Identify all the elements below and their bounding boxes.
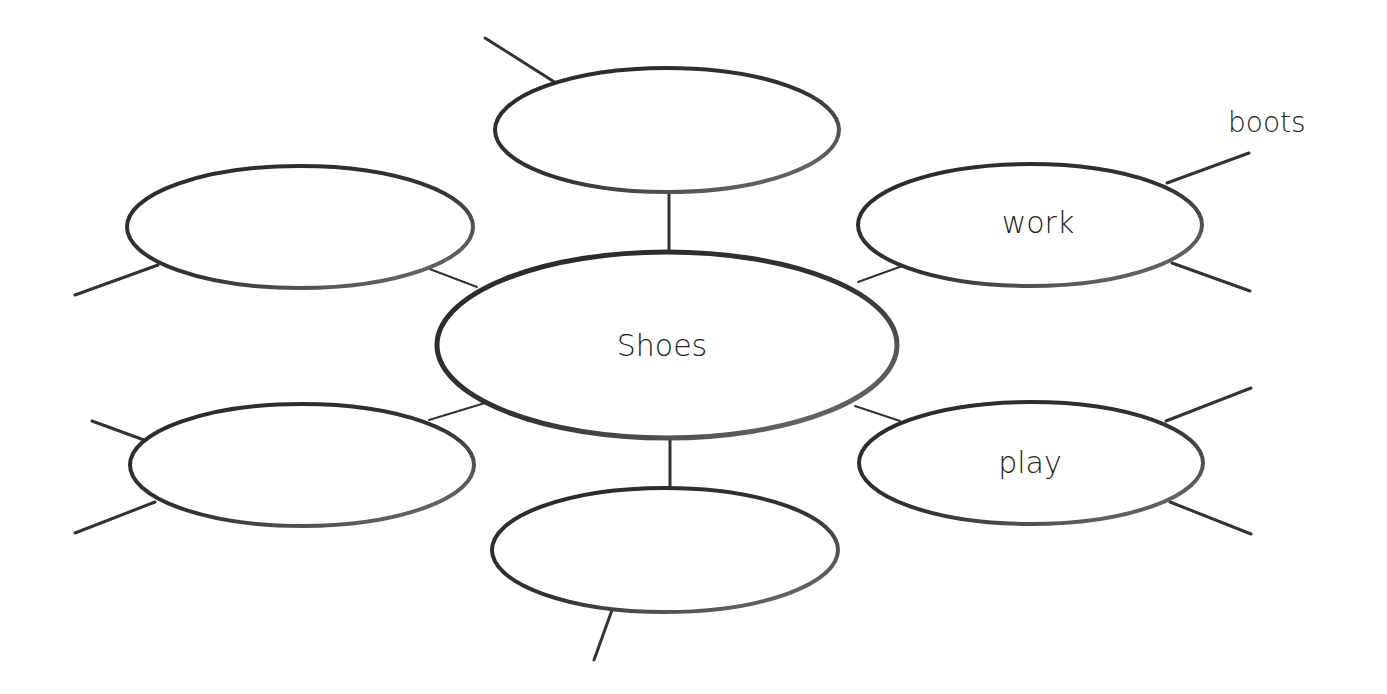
branch-work-1	[1167, 153, 1249, 183]
branch-label-boots: boots	[1228, 106, 1306, 139]
connector-center-upper-left	[427, 268, 477, 287]
branch-play-2	[1170, 502, 1251, 534]
node-play-label: play	[998, 445, 1062, 480]
branch-bottom-1	[594, 610, 612, 660]
node-bottom	[492, 488, 838, 612]
word-web-diagram: work play Shoes boots	[0, 0, 1387, 694]
node-top	[495, 68, 839, 192]
connector-center-work	[858, 265, 905, 282]
connector-center-play	[855, 406, 900, 421]
branch-play-1	[1166, 388, 1251, 421]
branch-upper-left-1	[75, 265, 158, 295]
node-center: Shoes	[437, 252, 897, 438]
branch-work-2	[1172, 263, 1250, 291]
node-lower-left	[130, 404, 474, 526]
node-work: work	[858, 164, 1202, 286]
node-play: play	[859, 402, 1203, 524]
branch-lower-left-1	[92, 421, 144, 440]
center-label: Shoes	[617, 328, 708, 363]
connector-center-lower-left	[429, 403, 485, 420]
branch-lower-left-2	[75, 502, 155, 533]
node-work-label: work	[1002, 205, 1075, 240]
branch-top-1	[485, 38, 556, 83]
node-upper-left	[127, 166, 473, 288]
